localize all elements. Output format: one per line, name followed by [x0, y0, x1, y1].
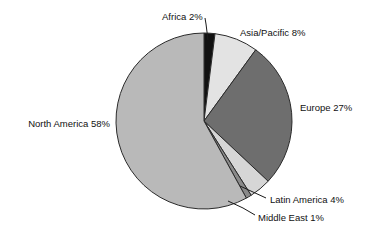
- leader-line-middle-east: [228, 201, 255, 215]
- pie-chart-canvas: Africa 2%Asia/Pacific 8%Europe 27%Latin …: [0, 0, 372, 239]
- pie-label-latin-america: Latin America 4%: [270, 194, 344, 205]
- pie-label-north-america: North America 58%: [28, 118, 110, 129]
- pie-label-africa: Africa 2%: [162, 11, 203, 22]
- pie-label-europe: Europe 27%: [300, 102, 353, 113]
- pie-label-asia-pacific: Asia/Pacific 8%: [240, 27, 306, 38]
- pie-slices-group: [116, 33, 292, 209]
- pie-label-middle-east: Middle East 1%: [258, 212, 325, 223]
- pie-chart-figure: Africa 2%Asia/Pacific 8%Europe 27%Latin …: [0, 0, 372, 239]
